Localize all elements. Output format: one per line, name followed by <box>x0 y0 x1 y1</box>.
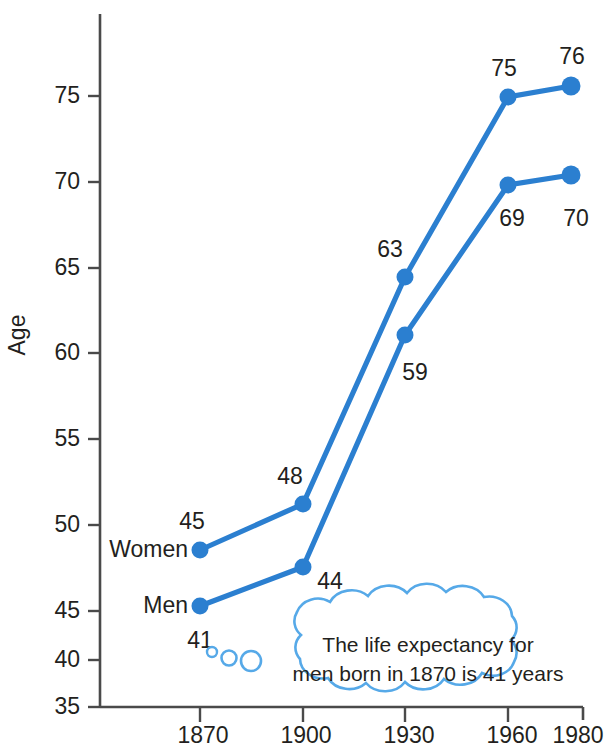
y-tick-label-70: 70 <box>54 168 80 194</box>
x-tick-label-1930: 1930 <box>383 722 434 748</box>
thought-bubble-line-2: men born in 1870 is 41 years <box>293 662 564 685</box>
data-point-women-1930 <box>397 269 414 286</box>
data-point-men-1900 <box>295 559 312 576</box>
data-label-men-1900: 44 <box>317 568 343 594</box>
x-tick-marks <box>200 707 508 722</box>
y-axis-title: Age <box>4 315 30 356</box>
thought-bubble-line-1: The life expectancy for <box>322 633 533 656</box>
y-tick-labels: 75 70 65 60 55 50 45 40 35 <box>54 82 80 719</box>
data-label-men-1930: 59 <box>402 359 428 385</box>
data-point-women-1980 <box>562 77 581 96</box>
y-tick-label-75: 75 <box>54 82 80 108</box>
thought-tail-circle-medium <box>222 651 237 666</box>
chart-canvas: 75 70 65 60 55 50 45 40 35 Age 1870 1900… <box>0 0 610 752</box>
series-label-women: Women <box>109 536 188 562</box>
x-tick-label-1960: 1960 <box>486 722 537 748</box>
data-label-women-1870: 45 <box>179 508 205 534</box>
data-point-men-1980 <box>562 166 581 185</box>
thought-tail-circle-large <box>241 651 261 671</box>
data-point-men-1870 <box>192 598 209 615</box>
series-points-men <box>192 166 581 615</box>
y-tick-marks <box>88 96 100 707</box>
data-label-women-1960: 75 <box>491 55 517 81</box>
data-label-men-1960: 69 <box>499 205 525 231</box>
series-label-men: Men <box>143 592 188 618</box>
y-tick-label-45: 45 <box>54 597 80 623</box>
data-point-women-1870 <box>192 542 209 559</box>
data-label-men-1980: 70 <box>563 205 589 231</box>
data-point-women-1900 <box>295 496 312 513</box>
y-tick-label-60: 60 <box>54 339 80 365</box>
x-tick-labels: 1870 1900 1930 1960 1980 <box>177 722 603 748</box>
y-tick-label-35: 35 <box>54 693 80 719</box>
data-labels-women: 45 48 63 75 76 <box>179 43 585 534</box>
y-tick-label-40: 40 <box>54 646 80 672</box>
data-point-men-1960 <box>500 177 517 194</box>
data-label-women-1980: 76 <box>559 43 585 69</box>
y-tick-label-50: 50 <box>54 511 80 537</box>
y-tick-label-55: 55 <box>54 425 80 451</box>
y-tick-label-65: 65 <box>54 254 80 280</box>
x-tick-label-1870: 1870 <box>177 722 228 748</box>
series-line-women <box>200 86 571 550</box>
data-label-women-1930: 63 <box>377 236 403 262</box>
life-expectancy-line-chart: 75 70 65 60 55 50 45 40 35 Age 1870 1900… <box>0 0 610 752</box>
thought-bubble-tail <box>207 647 261 671</box>
data-point-men-1930 <box>397 327 414 344</box>
data-point-women-1960 <box>500 89 517 106</box>
x-tick-label-1900: 1900 <box>280 722 331 748</box>
x-tick-label-1980: 1980 <box>552 722 603 748</box>
data-label-women-1900: 48 <box>277 463 303 489</box>
